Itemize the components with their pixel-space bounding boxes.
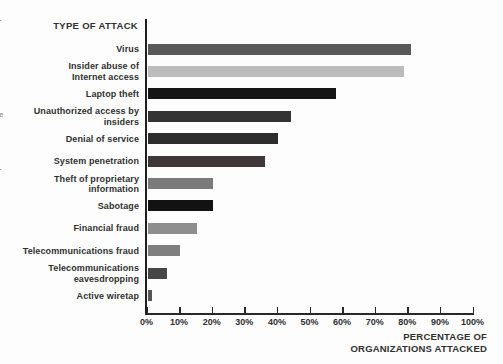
y-axis-line: [145, 19, 147, 315]
x-axis-title: PERCENTAGE OF ORGANIZATIONS ATTACKED: [350, 331, 487, 354]
tick-mark-90: [440, 307, 442, 315]
tick-mark-70: [375, 307, 377, 315]
label-sabotage: Sabotage: [0, 201, 139, 212]
tick-mark-20: [212, 307, 214, 315]
bar-telecommunications-fraud: [148, 245, 180, 256]
chart-title: TYPE OF ATTACK: [0, 20, 138, 31]
figure-bar-chart-type-of-attack: TYPE OF ATTACK VirusInsider abuse ofInte…: [0, 0, 503, 364]
tick-mark-10: [179, 307, 181, 315]
tick-mark-80: [407, 307, 409, 315]
page-edge-artifact: -: [0, 166, 2, 172]
tick-mark-50: [310, 307, 312, 315]
label-active-wiretap: Active wiretap: [0, 290, 139, 301]
bar-denial-of-service: [148, 133, 278, 144]
bar-sabotage: [148, 200, 213, 211]
label-laptop-theft: Laptop theft: [0, 89, 139, 100]
x-axis-title-line1: PERCENTAGE OF: [350, 331, 487, 343]
tick-mark-100: [473, 307, 475, 315]
bar-system-penetration: [148, 156, 265, 167]
page-edge-artifact: -: [0, 17, 2, 23]
page-edge-artifact: e: [0, 112, 3, 118]
x-axis-title-line2: ORGANIZATIONS ATTACKED: [350, 343, 487, 355]
bar-financial-fraud: [148, 223, 197, 234]
label-theft-of-proprietary-information: Theft of proprietaryinformation: [0, 173, 139, 194]
tick-mark-30: [244, 307, 246, 315]
tick-mark-0: [147, 307, 149, 315]
tick-mark-60: [342, 307, 344, 315]
bar-active-wiretap: [148, 290, 152, 301]
label-financial-fraud: Financial fraud: [0, 223, 139, 234]
label-insider-abuse-of-internet-access: Insider abuse ofInternet access: [0, 61, 139, 82]
bar-insider-abuse-of-internet-access: [148, 66, 404, 77]
tick-label-100: 100%: [453, 317, 493, 327]
label-system-penetration: System penetration: [0, 156, 139, 167]
bar-theft-of-proprietary-information: [148, 178, 213, 189]
bar-unauthorized-access-by-insiders: [148, 111, 291, 122]
label-denial-of-service: Denial of service: [0, 133, 139, 144]
label-telecommunications-eavesdropping: Telecommunicationseavesdropping: [0, 263, 139, 284]
tick-mark-40: [277, 307, 279, 315]
label-virus: Virus: [0, 44, 139, 55]
label-telecommunications-fraud: Telecommunications fraud: [0, 246, 139, 257]
label-unauthorized-access-by-insiders: Unauthorized access byinsiders: [0, 106, 139, 127]
bar-virus: [148, 44, 411, 55]
bar-laptop-theft: [148, 88, 336, 99]
bar-telecommunications-eavesdropping: [148, 268, 167, 279]
